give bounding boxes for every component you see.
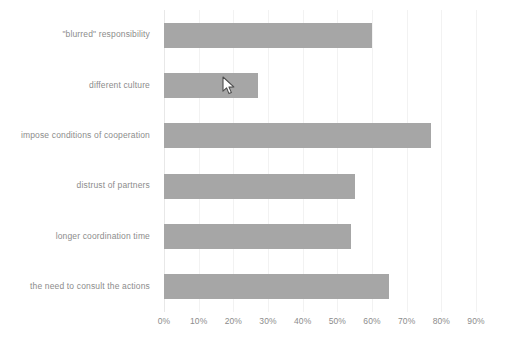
category-label: different culture <box>0 80 150 90</box>
bar-row <box>164 262 476 312</box>
bar-row <box>164 211 476 261</box>
x-axis-tick-labels: 0%10%20%30%40%50%60%70%80%90% <box>164 316 484 332</box>
category-label: "blurred" responsibility <box>0 29 150 39</box>
category-axis-labels: "blurred" responsibilitydifferent cultur… <box>0 10 158 312</box>
bar-row <box>164 10 476 60</box>
x-tick-label: 80% <box>433 316 450 326</box>
x-tick-label: 50% <box>329 316 346 326</box>
bar-series <box>164 10 476 312</box>
chart-screenshot: "blurred" responsibilitydifferent cultur… <box>0 0 506 349</box>
bar-row <box>164 161 476 211</box>
x-tick-label: 0% <box>158 316 171 326</box>
category-label: distrust of partners <box>0 180 150 190</box>
x-tick-label: 40% <box>294 316 311 326</box>
category-label: impose conditions of cooperation <box>0 130 150 140</box>
bar-row <box>164 60 476 110</box>
bar[interactable] <box>164 274 389 299</box>
x-tick-label: 10% <box>190 316 207 326</box>
bar[interactable] <box>164 23 372 48</box>
x-tick-label: 30% <box>259 316 276 326</box>
x-tick-label: 90% <box>467 316 484 326</box>
bar[interactable] <box>164 73 258 98</box>
bar[interactable] <box>164 174 355 199</box>
bar[interactable] <box>164 123 431 148</box>
bar-row <box>164 111 476 161</box>
x-tick-label: 70% <box>398 316 415 326</box>
x-tick-label: 20% <box>225 316 242 326</box>
category-label: the need to consult the actions <box>0 281 150 291</box>
gridline-90% <box>476 10 477 312</box>
x-tick-label: 60% <box>363 316 380 326</box>
bar[interactable] <box>164 224 351 249</box>
category-label: longer coordination time <box>0 231 150 241</box>
